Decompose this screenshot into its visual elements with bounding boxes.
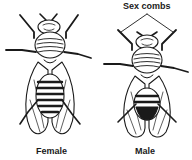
- female-label: Female: [36, 146, 67, 156]
- fly-diagram: [0, 0, 192, 160]
- sex-combs-label: Sex combs: [123, 1, 171, 11]
- female-fly: [6, 14, 91, 134]
- male-fly: [104, 14, 188, 137]
- male-label: Male: [135, 146, 155, 156]
